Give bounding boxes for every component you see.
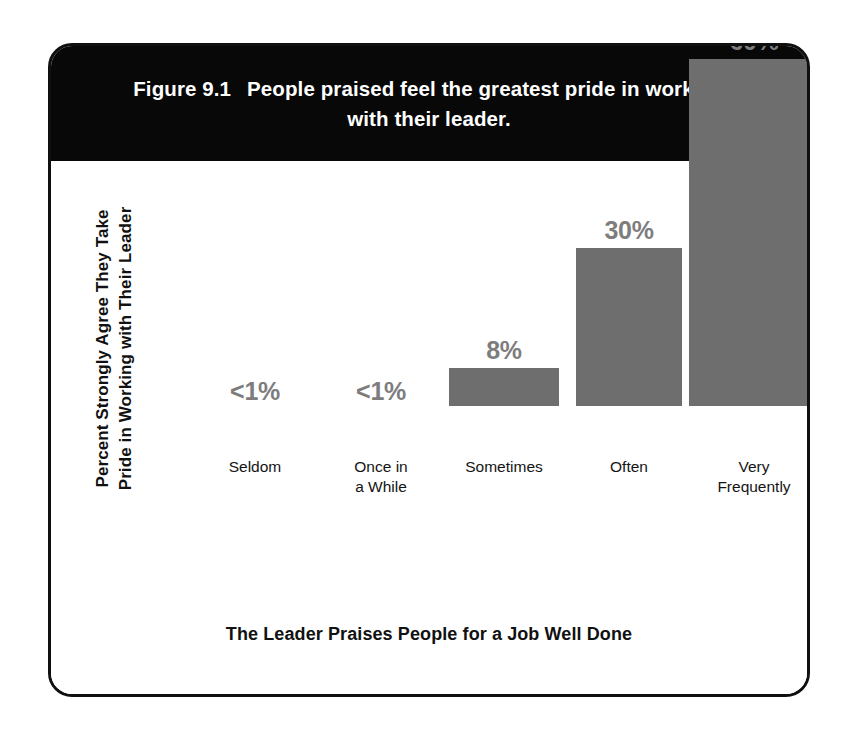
- bar-group-very-frequently: 60% Very Frequently: [689, 161, 810, 694]
- x-tick-line: Once in: [354, 458, 407, 475]
- bar-group-often: 30% Often: [576, 161, 682, 694]
- x-tick-line: Seldom: [229, 458, 282, 475]
- bars-layer: <1% Seldom <1% Once in a While 8% Som: [51, 161, 807, 694]
- plot-area: Percent Strongly Agree They Take Pride i…: [51, 161, 807, 694]
- bar-rect-very-frequently: [689, 59, 810, 406]
- figure-frame: Figure 9.1People praised feel the greate…: [48, 43, 810, 697]
- bar-rect-sometimes: [449, 368, 559, 406]
- bar-value-once-in-a-while: <1%: [329, 377, 433, 406]
- x-axis-title: The Leader Praises People for a Job Well…: [51, 624, 807, 645]
- figure-title-line1: People praised feel the greatest pride i…: [247, 77, 725, 100]
- x-tick-line: a While: [355, 478, 407, 495]
- bar-group-once-in-a-while: <1% Once in a While: [329, 161, 433, 694]
- figure-title: Figure 9.1People praised feel the greate…: [133, 74, 725, 132]
- x-tick-line: Sometimes: [465, 458, 543, 475]
- x-tick-line: Very: [738, 458, 769, 475]
- bar-value-often: 30%: [576, 216, 682, 245]
- bar-value-sometimes: 8%: [449, 336, 559, 365]
- figure-number: Figure 9.1: [133, 77, 231, 100]
- bar-group-seldom: <1% Seldom: [203, 161, 307, 694]
- figure-title-line2: with their leader.: [347, 107, 511, 130]
- bar-rect-often: [576, 248, 682, 406]
- x-tick-line: Frequently: [717, 478, 790, 495]
- bar-value-very-frequently: 60%: [689, 43, 810, 56]
- x-tick-label-very-frequently: Very Frequently: [667, 457, 810, 497]
- bar-value-seldom: <1%: [203, 377, 307, 406]
- bar-group-sometimes: 8% Sometimes: [449, 161, 559, 694]
- x-tick-line: Often: [610, 458, 648, 475]
